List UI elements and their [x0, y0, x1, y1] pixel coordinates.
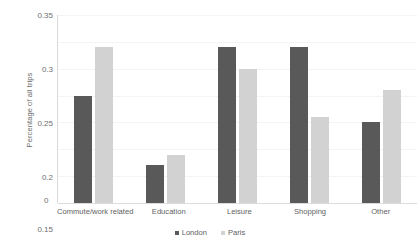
y-axis-title: Percentage of all trips [22, 10, 36, 210]
bar-london[interactable] [290, 47, 308, 203]
bar-group [130, 15, 202, 203]
x-axis-category-label: Other [345, 204, 416, 220]
x-axis-category-label: Leisure [204, 204, 275, 220]
bar-paris[interactable] [383, 90, 401, 203]
legend-label: Paris [228, 228, 245, 237]
bar-group [58, 15, 130, 203]
y-axis-title-container: Percentage of all trips [22, 10, 36, 205]
legend-item[interactable]: London [175, 228, 207, 237]
plot-area: 0.350.30.250.20.150.10.050 [57, 15, 417, 203]
x-axis-category-labels: Commute/work relatedEducationLeisureShop… [57, 204, 416, 220]
legend-label: London [182, 228, 207, 237]
y-tick-label: 0.25 [37, 119, 53, 128]
bar-paris[interactable] [95, 47, 113, 203]
bar-groups [58, 15, 417, 203]
y-tick-label: 0.2 [42, 173, 53, 182]
bar-london[interactable] [74, 96, 92, 203]
bar-group [345, 15, 417, 203]
x-axis-category-label: Education [133, 204, 204, 220]
x-axis-category-label: Shopping [275, 204, 346, 220]
bar-paris[interactable] [311, 117, 329, 203]
y-tick-label: 0.3 [42, 65, 53, 74]
bar-chart: Percentage of all trips 0 0.350.30.250.2… [0, 0, 420, 251]
bar-group [202, 15, 274, 203]
legend-item[interactable]: Paris [221, 228, 245, 237]
bar-london[interactable] [146, 165, 164, 203]
legend-swatch-icon [221, 231, 225, 235]
y-tick-label: 0.35 [37, 11, 53, 20]
bar-group [273, 15, 345, 203]
bar-paris[interactable] [239, 69, 257, 203]
y-tick-label-zero: 0 [44, 196, 48, 205]
bar-london[interactable] [218, 47, 236, 203]
bar-london[interactable] [362, 122, 380, 203]
legend-swatch-icon [175, 231, 179, 235]
chart-legend: LondonParis [0, 228, 420, 237]
x-axis-category-label: Commute/work related [57, 204, 133, 220]
bar-paris[interactable] [167, 155, 185, 203]
